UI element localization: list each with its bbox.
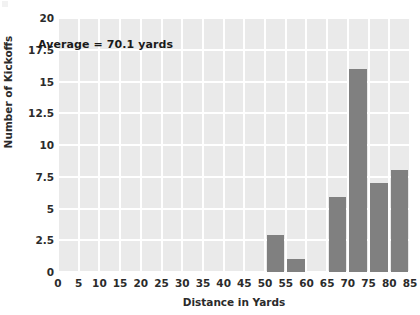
x-tick-label: 60 xyxy=(299,277,314,289)
x-tick-label: 5 xyxy=(75,277,82,289)
y-axis-tick-labels: 02.557.51012.51517.520 xyxy=(0,18,54,272)
y-tick-label: 20 xyxy=(2,12,54,24)
y-tick-label: 10 xyxy=(2,139,54,151)
x-tick-label: 50 xyxy=(258,277,273,289)
y-tick-label: 5 xyxy=(2,203,54,215)
x-tick-label: 75 xyxy=(361,277,376,289)
x-tick-label: 55 xyxy=(278,277,293,289)
average-annotation: Average = 70.1 yards xyxy=(38,38,173,51)
x-tick-label: 45 xyxy=(237,277,252,289)
y-tick-label: 0 xyxy=(2,266,54,278)
y-tick-label: 7.5 xyxy=(2,171,54,183)
plot-area xyxy=(58,18,410,272)
y-tick-label: 2.5 xyxy=(2,234,54,246)
histogram-figure: Number of Kickoffs 02.557.51012.51517.52… xyxy=(0,0,420,315)
x-tick-label: 0 xyxy=(54,277,61,289)
histogram-bar xyxy=(349,69,367,272)
x-tick-label: 70 xyxy=(341,277,356,289)
x-tick-label: 30 xyxy=(175,277,190,289)
histogram-bar xyxy=(287,259,305,272)
x-tick-label: 85 xyxy=(403,277,418,289)
histogram-bar xyxy=(370,183,388,272)
x-tick-label: 65 xyxy=(320,277,335,289)
corner-artifact xyxy=(2,1,8,7)
x-axis-tick-labels: 0510152025303540455055606570758085 xyxy=(58,277,410,293)
x-tick-label: 25 xyxy=(154,277,169,289)
y-tick-label: 12.5 xyxy=(2,107,54,119)
y-tick-label: 15 xyxy=(2,76,54,88)
gridline-horizontal xyxy=(58,18,410,19)
x-tick-label: 10 xyxy=(92,277,107,289)
histogram-bar xyxy=(391,170,409,272)
x-tick-label: 35 xyxy=(196,277,211,289)
x-axis-title: Distance in Yards xyxy=(58,296,410,308)
x-tick-label: 80 xyxy=(382,277,397,289)
x-tick-label: 40 xyxy=(216,277,231,289)
x-tick-label: 20 xyxy=(134,277,149,289)
histogram-bar xyxy=(329,197,347,272)
histogram-bar xyxy=(267,235,285,272)
x-tick-label: 15 xyxy=(113,277,128,289)
